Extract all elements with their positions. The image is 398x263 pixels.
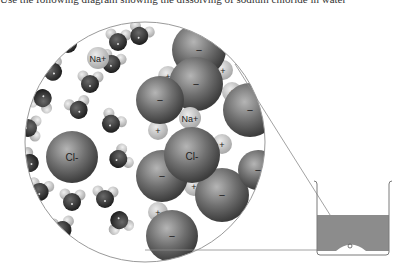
beaker: [314, 181, 392, 255]
svg-text:−: −: [169, 230, 175, 242]
svg-text:Cl-: Cl-: [186, 151, 199, 162]
chloride-ion-lattice: Cl-: [164, 127, 220, 183]
svg-text:+: +: [219, 140, 224, 150]
svg-text:Cl-: Cl-: [66, 152, 79, 163]
svg-text:−: −: [196, 44, 202, 56]
svg-text:Na+: Na+: [90, 54, 107, 64]
sodium-ion-free: Na+: [87, 47, 109, 69]
svg-text:−: −: [193, 78, 199, 90]
sodium-ion-lattice: Na+: [179, 107, 201, 129]
svg-text:−: −: [157, 94, 163, 106]
svg-text:+: +: [155, 126, 160, 136]
svg-text:−: −: [219, 189, 225, 201]
magnified-view: Na+ Cl- + + + + + + + + − − − − − − − −: [12, 19, 280, 263]
svg-text:−: −: [247, 104, 253, 116]
nacl-dissolving-diagram: Na+ Cl- + + + + + + + + − − − − − − − −: [0, 0, 398, 263]
svg-text:Na+: Na+: [182, 114, 199, 124]
chloride-ion-free: Cl-: [46, 131, 98, 183]
svg-text:−: −: [159, 170, 165, 182]
